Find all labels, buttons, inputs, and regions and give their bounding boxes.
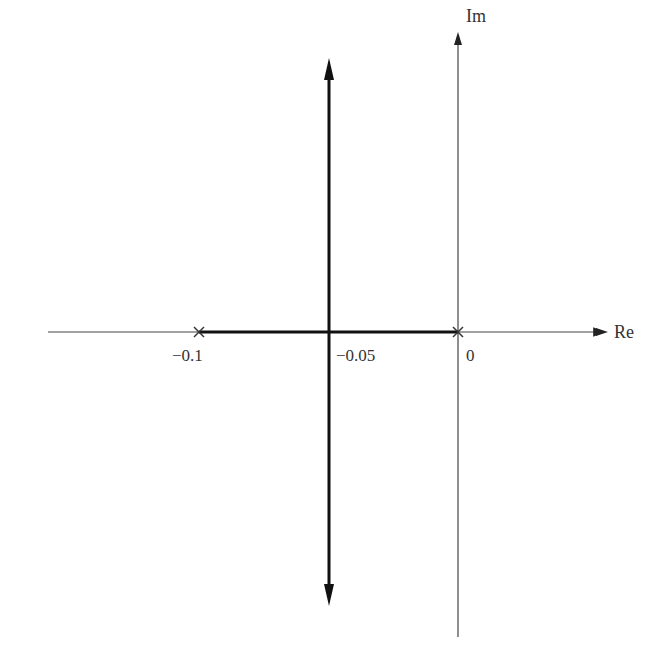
root-locus-plot: [0, 0, 661, 658]
locus-up-arrow-icon: [324, 58, 334, 80]
tick-label-neg-0-05: −0.05: [336, 346, 375, 366]
locus-down-arrow-icon: [324, 584, 334, 606]
imaginary-axis-arrow-icon: [454, 32, 462, 45]
tick-label-neg-0-1: −0.1: [172, 346, 203, 366]
real-axis-label: Re: [614, 322, 634, 343]
real-axis-arrow-icon: [596, 328, 608, 336]
imaginary-axis-label: Im: [466, 6, 486, 27]
tick-label-0: 0: [466, 346, 475, 366]
